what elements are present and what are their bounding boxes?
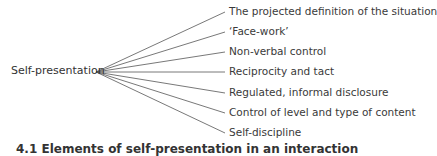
root-node-label: Self-presentation <box>11 64 105 77</box>
branch-label: The projected definition of the situatio… <box>229 5 437 17</box>
branch-label: ‘Face-work’ <box>229 25 289 37</box>
branch-label: Regulated, informal disclosure <box>229 86 388 98</box>
branch-label: Self-discipline <box>229 126 301 138</box>
branch-label: Reciprocity and tact <box>229 65 334 77</box>
branch-label: Control of level and type of content <box>229 106 416 118</box>
branch-label: Non-verbal control <box>229 45 326 57</box>
figure-caption: 4.1 Elements of self-presentation in an … <box>16 142 358 156</box>
